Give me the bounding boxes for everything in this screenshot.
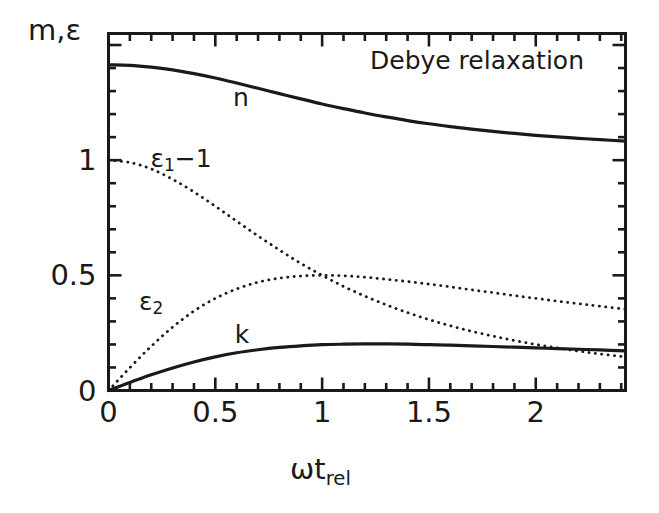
x-axis-label-subscript: rel [326, 467, 351, 490]
x-tick-label-2: 1 [313, 398, 331, 427]
annotation-title: Debye relaxation [370, 48, 584, 73]
curve-k [109, 344, 626, 391]
x-axis-label: ωtrel [290, 455, 351, 488]
figure-container: m,ε ωtrel Debye relaxation 0 0.5 1 1.5 2… [0, 0, 659, 513]
curve-epsilon1-minus-1 [109, 160, 626, 357]
curve-label-epsilon2-subscript: 2 [153, 298, 164, 318]
data-curves [109, 65, 626, 391]
curve-label-epsilon2-symbol: ε [139, 287, 153, 316]
y-tick-label-0: 0 [78, 376, 96, 405]
curve-label-epsilon1: ε1−1 [151, 146, 212, 175]
curve-epsilon2 [109, 275, 626, 390]
curve-label-k: k [235, 322, 249, 347]
x-axis-label-main: ωt [290, 452, 326, 486]
curve-label-epsilon1-symbol: ε [151, 144, 165, 173]
y-tick-label-1: 0.5 [50, 261, 96, 290]
x-tick-label-1: 0.5 [192, 398, 238, 427]
debye-relaxation-plot [0, 0, 659, 513]
x-tick-label-0: 0 [99, 398, 117, 427]
x-tick-label-3: 1.5 [406, 398, 452, 427]
y-tick-label-2: 1 [78, 146, 96, 175]
axes-frame [109, 34, 626, 391]
curve-n [109, 65, 626, 141]
curve-label-n: n [233, 84, 249, 109]
curve-label-epsilon1-subscript: 1 [164, 156, 175, 176]
y-axis-label: m,ε [28, 16, 81, 45]
x-tick-label-4: 2 [527, 398, 545, 427]
curve-label-epsilon2: ε2 [139, 289, 163, 318]
curve-label-epsilon1-rest: −1 [175, 144, 212, 173]
axis-ticks [109, 34, 626, 391]
